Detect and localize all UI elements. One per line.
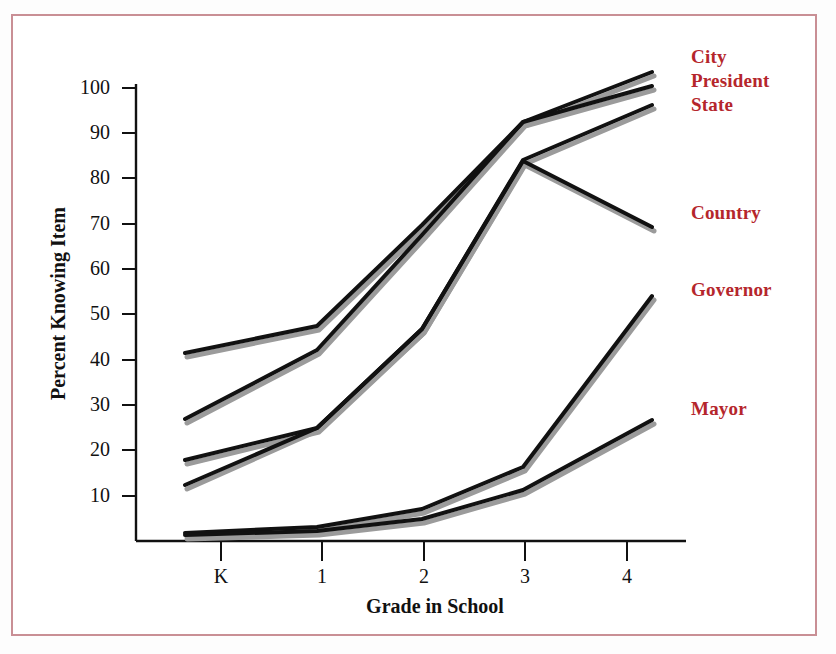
y-tick-label-90: 90 [52, 121, 110, 144]
x-tick-label-4: 4 [607, 565, 647, 588]
chart-page: 100 90 80 70 60 50 40 30 20 10 K 1 2 3 4… [0, 0, 836, 654]
series-label-state: State [691, 94, 733, 116]
series-label-city: City [691, 46, 727, 68]
shadow-country [187, 165, 654, 489]
x-tick-label-k: K [201, 565, 241, 588]
x-axis-ticks [221, 541, 627, 561]
series-line-country [185, 161, 652, 485]
series-line-state [185, 105, 652, 460]
x-tick-label-2: 2 [404, 565, 444, 588]
y-tick-label-10: 10 [52, 484, 110, 507]
series-line-mayor [185, 420, 652, 535]
y-tick-label-100: 100 [52, 76, 110, 99]
shadow-city [187, 76, 654, 357]
x-tick-label-1: 1 [302, 565, 342, 588]
x-tick-label-3: 3 [505, 565, 545, 588]
series-line-city [185, 72, 652, 353]
series-label-mayor: Mayor [691, 398, 747, 420]
y-tick-label-80: 80 [52, 166, 110, 189]
y-tick-label-20: 20 [52, 438, 110, 461]
x-axis-title: Grade in School [265, 595, 605, 618]
series-label-country: Country [691, 202, 761, 224]
y-axis-title: Percent Knowing Item [47, 194, 70, 414]
series-label-president: President [691, 70, 770, 92]
shadow-state [187, 109, 654, 464]
series-shadows [187, 76, 654, 539]
y-axis-ticks [122, 88, 136, 496]
series-label-governor: Governor [691, 279, 772, 301]
